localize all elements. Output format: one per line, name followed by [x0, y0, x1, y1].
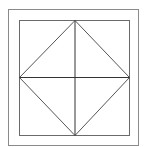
diagram-canvas: [0, 0, 146, 147]
